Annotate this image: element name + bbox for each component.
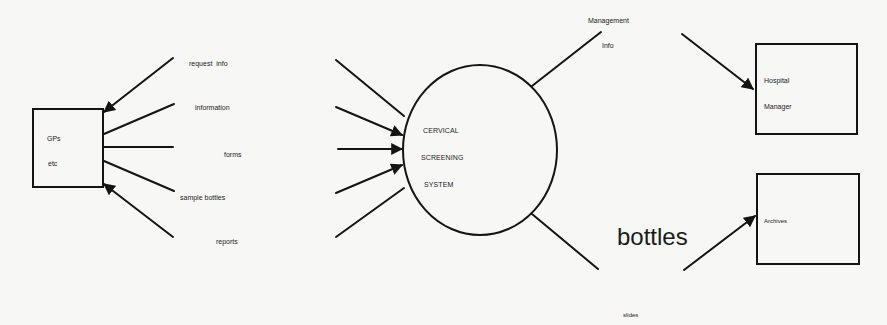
flow-sample-bottles-line-2 [336, 165, 402, 193]
flow-management-info-arrow [682, 34, 753, 89]
flow-sample-bottles-line [104, 161, 174, 191]
diagram-lines [0, 0, 887, 325]
flow-request-info-line [104, 58, 173, 112]
flow-management-info-line [532, 32, 601, 86]
entity-hospital-manager-label: Hospital [764, 77, 789, 84]
flow-label-sample-bottles: sample bottles [180, 194, 225, 201]
central-process-circle [403, 65, 557, 235]
entity-gps-label: GPs [47, 135, 61, 142]
flow-information-line-2 [336, 107, 402, 135]
central-process-label-3: SYSTEM [424, 181, 453, 188]
context-diagram: GPs etc request info information forms s… [0, 0, 887, 325]
flow-reports-line [104, 184, 173, 237]
flow-label-request-info: request info [189, 60, 228, 67]
entity-archives-label: Archives [764, 218, 787, 224]
flow-reports-line-2 [336, 188, 404, 237]
flow-information-line [104, 104, 174, 134]
flow-label-reports: reports [216, 238, 238, 245]
flow-label-slides: slides [623, 312, 638, 318]
entity-hospital-manager-box [755, 43, 858, 135]
flow-bottles-line [532, 214, 598, 269]
flow-request-info-line-2 [336, 60, 404, 116]
flow-label-bottles: bottles [617, 225, 688, 249]
flow-bottles-arrow [684, 216, 755, 270]
flow-label-forms: forms [224, 151, 242, 158]
flow-label-information: information [195, 104, 230, 111]
entity-gps-box [32, 108, 104, 188]
central-process-label-2: SCREENING [421, 154, 464, 161]
flow-label-management: Management [588, 17, 629, 24]
central-process-label-1: CERVICAL [423, 127, 459, 134]
entity-gps-label-2: etc [48, 160, 57, 167]
entity-hospital-manager-label-2: Manager [764, 103, 792, 110]
flow-label-info: Info [602, 42, 614, 49]
